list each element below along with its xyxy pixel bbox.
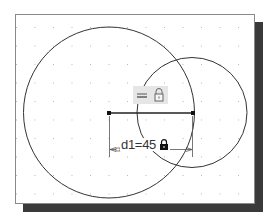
- dimension-label[interactable]: d1=45: [120, 138, 170, 151]
- horizontal-constraint-icon[interactable]: [137, 94, 147, 97]
- line-endpoint-left[interactable]: [107, 111, 111, 115]
- unlocked-lock-icon[interactable]: [155, 89, 163, 102]
- dimension-text[interactable]: d1=45: [121, 137, 156, 152]
- grid-dots: [16, 15, 254, 203]
- line-endpoint-right[interactable]: [191, 111, 195, 115]
- sketch-graphics[interactable]: [0, 0, 270, 219]
- constraint-glyph-bar[interactable]: [133, 86, 168, 104]
- locked-lock-icon: [159, 139, 169, 150]
